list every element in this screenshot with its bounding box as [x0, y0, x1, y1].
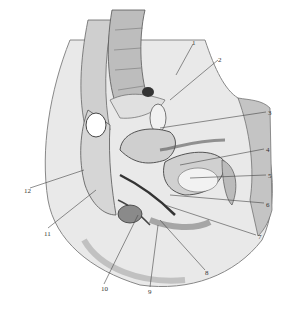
- label-7: 7: [258, 234, 262, 241]
- label-9: 9: [148, 289, 152, 296]
- label-2: 2: [218, 57, 222, 64]
- anatomy-illustration: [0, 0, 284, 310]
- label-1: 1: [192, 40, 196, 47]
- label-6: 6: [266, 202, 270, 209]
- label-11: 11: [44, 231, 51, 238]
- label-12: 12: [24, 188, 31, 195]
- label-10: 10: [101, 286, 108, 293]
- label-8: 8: [205, 270, 209, 277]
- label-5: 5: [268, 173, 272, 180]
- label-4: 4: [266, 147, 270, 154]
- label-3: 3: [268, 110, 272, 117]
